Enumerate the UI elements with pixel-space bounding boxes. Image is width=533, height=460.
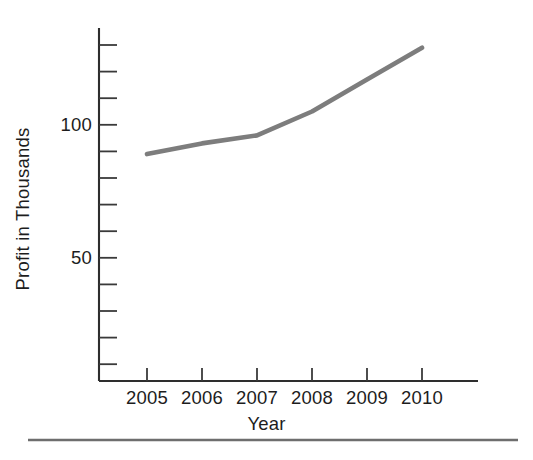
profit-data-line xyxy=(147,48,422,154)
y-tick-label-100: 100 xyxy=(40,114,92,136)
y-axis-title: Profit in Thousands xyxy=(12,128,34,291)
x-axis-ticks xyxy=(147,368,422,381)
x-axis-title: Year xyxy=(0,413,533,435)
y-axis-title-wrap: Profit in Thousands xyxy=(0,0,46,460)
chart-figure: 100 50 2005 2006 2007 2008 2009 2010 Yea… xyxy=(0,0,533,460)
y-tick-label-50: 50 xyxy=(40,247,92,269)
y-axis-ticks xyxy=(99,45,117,364)
x-tick-label-2010: 2010 xyxy=(387,387,457,409)
